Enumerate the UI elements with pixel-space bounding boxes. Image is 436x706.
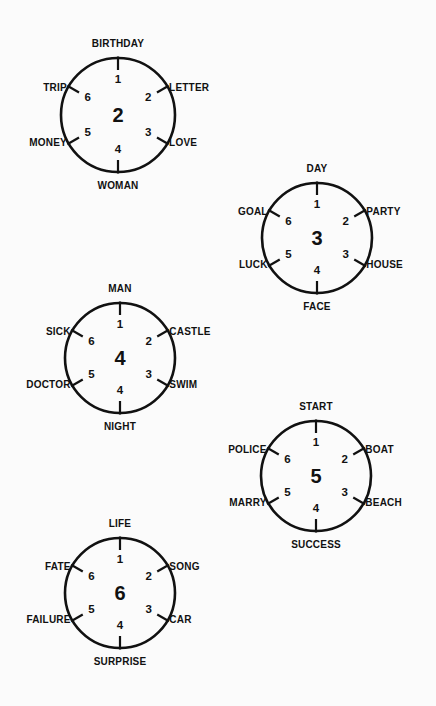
wheel-word-success: SUCCESS bbox=[291, 540, 341, 550]
wheel-word-birthday: BIRTHDAY bbox=[92, 39, 144, 49]
wheel-position-number-1: 1 bbox=[117, 554, 123, 566]
wheel-position-number-4: 4 bbox=[117, 385, 123, 397]
wheel-word-boat: BOAT bbox=[365, 445, 393, 455]
wheel-tick-2 bbox=[354, 210, 366, 217]
wheel-center-number: 5 bbox=[310, 466, 321, 486]
wheel-position-number-4: 4 bbox=[117, 620, 123, 632]
wheel-word-fate: FATE bbox=[45, 562, 71, 572]
wheel-word-trip: TRIP bbox=[43, 83, 67, 93]
wheel-tick-5 bbox=[268, 260, 280, 267]
wheel-tick-3 bbox=[354, 260, 366, 267]
wheel-word-doctor: DOCTOR bbox=[26, 380, 70, 390]
wheel-center-number: 2 bbox=[112, 105, 123, 125]
wheel-position-number-2: 2 bbox=[145, 92, 151, 104]
wheel-position-number-5: 5 bbox=[88, 604, 94, 616]
wheel-tick-6 bbox=[267, 448, 279, 455]
wheel-word-surprise: SURPRISE bbox=[94, 657, 147, 667]
wheel-position-number-3: 3 bbox=[145, 127, 151, 139]
wheel-word-castle: CASTLE bbox=[169, 327, 210, 337]
wheel-position-number-5: 5 bbox=[285, 249, 291, 261]
wheel-position-number-2: 2 bbox=[145, 571, 151, 583]
wheel-position-number-1: 1 bbox=[115, 74, 121, 86]
wheel-tick-6 bbox=[268, 210, 280, 217]
wheel-4: 41MAN2CASTLE3SWIM4NIGHT5DOCTOR6SICK bbox=[25, 263, 215, 453]
wheel-position-number-6: 6 bbox=[84, 92, 90, 104]
wheel-5: 51START2BOAT3BEACH4SUCCESS5MARRY6POLICE bbox=[221, 381, 411, 571]
wheel-word-start: START bbox=[299, 402, 333, 412]
wheel-word-failure: FAILURE bbox=[26, 615, 70, 625]
wheel-word-marry: MARRY bbox=[229, 498, 266, 508]
wheel-position-number-2: 2 bbox=[342, 216, 348, 228]
wheel-position-number-1: 1 bbox=[314, 199, 320, 211]
wheel-2: 21BIRTHDAY2LETTER3LOVE4WOMAN5MONEY6TRIP bbox=[21, 18, 215, 212]
wheel-6: 61LIFE2SONG3CAR4SURPRISE5FAILURE6FATE bbox=[25, 498, 215, 688]
wheel-word-house: HOUSE bbox=[366, 260, 403, 270]
wheel-tick-6 bbox=[71, 565, 83, 572]
wheel-tick-6 bbox=[71, 330, 83, 337]
wheel-position-number-2: 2 bbox=[341, 454, 347, 466]
wheel-word-money: MONEY bbox=[29, 138, 67, 148]
wheel-position-number-4: 4 bbox=[115, 144, 121, 156]
wheel-tick-5 bbox=[267, 498, 279, 505]
wheel-position-number-6: 6 bbox=[285, 216, 291, 228]
wheel-tick-3 bbox=[353, 498, 365, 505]
wheel-position-number-4: 4 bbox=[313, 503, 319, 515]
wheel-word-love: LOVE bbox=[169, 138, 197, 148]
wheel-3: 31DAY2PARTY3HOUSE4FACE5LUCK6GOAL bbox=[222, 143, 412, 333]
wheel-position-number-6: 6 bbox=[284, 454, 290, 466]
wheel-position-number-6: 6 bbox=[88, 571, 94, 583]
wheel-word-man: MAN bbox=[108, 284, 131, 294]
wheel-word-beach: BEACH bbox=[365, 498, 402, 508]
wheel-position-number-3: 3 bbox=[145, 369, 151, 381]
wheel-tick-6 bbox=[67, 86, 79, 93]
wheel-word-woman: WOMAN bbox=[98, 181, 139, 191]
wheel-tick-2 bbox=[157, 330, 169, 337]
wheel-tick-3 bbox=[157, 138, 169, 145]
wheel-center-number: 3 bbox=[311, 228, 322, 248]
wheel-tick-2 bbox=[353, 448, 365, 455]
wheel-tick-5 bbox=[71, 380, 83, 387]
wheel-word-police: POLICE bbox=[228, 445, 266, 455]
wheel-position-number-3: 3 bbox=[342, 249, 348, 261]
wheel-position-number-5: 5 bbox=[88, 369, 94, 381]
wheel-tick-5 bbox=[67, 138, 79, 145]
wheel-position-number-2: 2 bbox=[145, 336, 151, 348]
wheel-word-face: FACE bbox=[303, 302, 330, 312]
wheel-position-number-5: 5 bbox=[284, 487, 290, 499]
wheel-word-night: NIGHT bbox=[104, 422, 136, 432]
wheel-position-number-4: 4 bbox=[314, 265, 320, 277]
wheel-word-party: PARTY bbox=[366, 207, 400, 217]
wheel-word-letter: LETTER bbox=[169, 83, 209, 93]
wheel-position-number-5: 5 bbox=[84, 127, 90, 139]
wheel-word-luck: LUCK bbox=[239, 260, 268, 270]
wheel-word-swim: SWIM bbox=[169, 380, 197, 390]
wheel-tick-2 bbox=[157, 565, 169, 572]
worksheet-canvas: 21BIRTHDAY2LETTER3LOVE4WOMAN5MONEY6TRIP3… bbox=[0, 0, 436, 706]
wheel-center-number: 6 bbox=[114, 583, 125, 603]
wheel-word-day: DAY bbox=[307, 164, 328, 174]
wheel-position-number-1: 1 bbox=[313, 437, 319, 449]
wheel-word-goal: GOAL bbox=[238, 207, 268, 217]
wheel-word-song: SONG bbox=[169, 562, 199, 572]
wheel-tick-5 bbox=[71, 615, 83, 622]
wheel-position-number-3: 3 bbox=[341, 487, 347, 499]
wheel-tick-3 bbox=[157, 615, 169, 622]
wheel-tick-3 bbox=[157, 380, 169, 387]
wheel-word-car: CAR bbox=[169, 615, 191, 625]
wheel-position-number-3: 3 bbox=[145, 604, 151, 616]
wheel-word-sick: SICK bbox=[46, 327, 71, 337]
wheel-word-life: LIFE bbox=[109, 519, 131, 529]
wheel-center-number: 4 bbox=[114, 348, 125, 368]
wheel-tick-2 bbox=[157, 86, 169, 93]
wheel-position-number-1: 1 bbox=[117, 319, 123, 331]
wheel-position-number-6: 6 bbox=[88, 336, 94, 348]
